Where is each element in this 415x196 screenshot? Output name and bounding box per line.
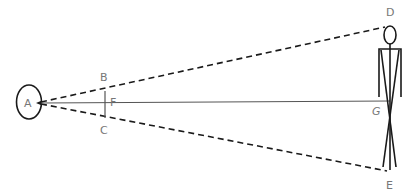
figure-body-left bbox=[381, 50, 396, 167]
figure-body-right bbox=[383, 50, 399, 167]
label-e: E bbox=[386, 179, 393, 192]
figure-head bbox=[384, 26, 396, 44]
label-f: F bbox=[110, 96, 116, 109]
label-c: C bbox=[100, 124, 108, 137]
ray-a-to-e bbox=[41, 104, 387, 171]
label-d: D bbox=[386, 6, 394, 19]
ray-a-to-d bbox=[41, 27, 385, 102]
diagram-svg: A B F C D G E bbox=[0, 0, 415, 196]
label-a: A bbox=[24, 97, 32, 110]
stick-figure bbox=[379, 26, 401, 170]
label-g: G bbox=[372, 105, 381, 118]
diagram-canvas: A B F C D G E bbox=[0, 0, 415, 196]
axis-a-to-g bbox=[41, 101, 390, 103]
label-b: B bbox=[100, 71, 108, 84]
